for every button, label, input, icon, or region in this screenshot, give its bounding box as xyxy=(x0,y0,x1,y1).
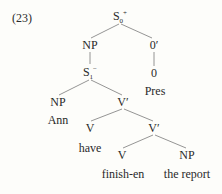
node-zero-bar: 0′ xyxy=(150,39,159,51)
word-finish-en: finish-en xyxy=(102,168,145,180)
node-s1-minus: S1− xyxy=(83,66,97,78)
node-np-subject: NP xyxy=(82,39,97,51)
word-ann: Ann xyxy=(48,114,69,126)
node-np-object: NP xyxy=(179,149,194,161)
node-zero: 0 xyxy=(151,67,157,79)
word-have: have xyxy=(79,142,102,154)
node-s0-plus: S0+ xyxy=(113,10,127,22)
node-vbar-low: V′ xyxy=(148,122,159,134)
node-vbar-top: V′ xyxy=(117,96,128,108)
node-v-finish: V xyxy=(118,149,127,161)
example-number: (23) xyxy=(12,12,32,24)
tree-branches xyxy=(0,0,222,194)
node-np-ann: NP xyxy=(50,96,65,108)
word-the-report: the report xyxy=(164,168,210,180)
word-pres: Pres xyxy=(145,85,166,97)
node-v-have: V xyxy=(86,122,95,134)
